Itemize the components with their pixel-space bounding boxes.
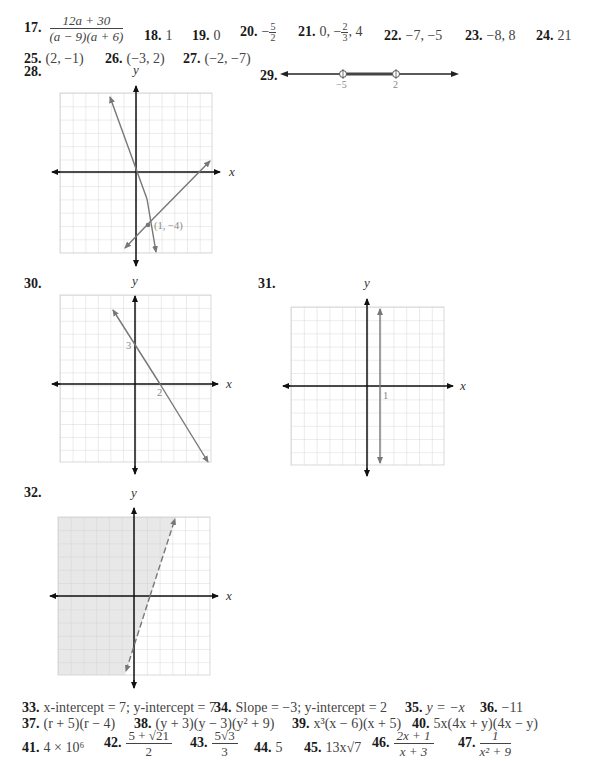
point-label: (1, −4) — [154, 220, 183, 232]
left-endpoint-label: −5 — [336, 79, 347, 90]
intersection-point — [146, 223, 151, 228]
answer-41: 41.4 × 10⁶ — [22, 738, 84, 756]
answer-22: 22.−7, −5 — [384, 26, 442, 44]
answer-45: 45.13x√7 — [304, 738, 361, 756]
answer-43: 43.5√33 — [190, 728, 238, 759]
answer-23: 23.−8, 8 — [465, 26, 515, 44]
graph-28: x y (1, −4) — [0, 60, 260, 270]
x-axis-label: x — [225, 376, 232, 391]
graph-31: x y 1 — [260, 270, 520, 480]
right-endpoint-label: 2 — [393, 79, 398, 90]
answer-24: 24.21 — [536, 26, 572, 44]
y-intercept-label: 3 — [126, 340, 131, 351]
fraction: 12a + 30 (a − 9)(a + 6) — [50, 13, 124, 44]
graph-32: x y — [0, 480, 260, 700]
graph-30: x y 3 2 — [0, 270, 260, 480]
y-axis-label: y — [362, 275, 370, 290]
x-axis-label: x — [225, 588, 232, 603]
answer-37: 37.(r + 5)(r − 4) — [22, 714, 115, 732]
answer-17: 17. 12a + 30 (a − 9)(a + 6) — [24, 13, 123, 44]
y-axis-label: y — [131, 62, 139, 77]
answer-21: 21.0, −23, 4 — [298, 22, 362, 43]
x-axis-label: x — [228, 164, 235, 179]
x-axis-label: x — [459, 378, 466, 393]
answer-42: 42.5 + √212 — [104, 728, 172, 759]
answer-44: 44.5 — [254, 738, 283, 756]
graph-29-number-line: −5 2 — [260, 60, 560, 100]
y-axis-label: y — [130, 273, 138, 288]
x-value-label: 1 — [383, 390, 388, 401]
answer-47: 47.1x² + 9 — [458, 728, 511, 759]
answer-18: 18.1 — [144, 26, 173, 44]
answer-46: 46.2x + 1x + 3 — [372, 728, 434, 759]
x-intercept-label: 2 — [157, 387, 162, 398]
y-axis-label: y — [129, 485, 137, 500]
answer-20: 20.−52 — [240, 22, 276, 43]
answer-19: 19.0 — [192, 26, 221, 44]
